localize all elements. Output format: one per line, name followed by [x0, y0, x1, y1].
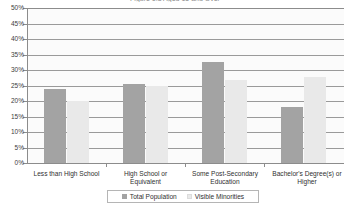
bar-visible-minorities-0	[67, 101, 89, 163]
y-axis-label-5: 5%	[2, 145, 24, 152]
x-axis-label-1: High School or Equivalent	[106, 170, 185, 186]
x-axis-label-0-line1: Less than High School	[27, 170, 106, 178]
legend-item-visible-minorities[interactable]: Visible Minorities	[187, 193, 244, 200]
y-axis-label-30: 30%	[2, 67, 24, 74]
y-axis-label-15: 15%	[2, 114, 24, 121]
y-axis-label-20: 20%	[2, 98, 24, 105]
bar-chart: Figure 1.3 Aged 15 and Over 50% 45% 40% …	[0, 0, 350, 205]
x-axis-label-1-line1: High School or	[106, 170, 185, 178]
bars-layer	[27, 8, 343, 163]
legend-swatch-icon-visible-minorities	[187, 194, 192, 199]
bar-group-some-post-secondary-education	[185, 8, 264, 163]
x-axis-label-2-line2: Education	[183, 178, 267, 186]
bar-total-population-1	[123, 84, 145, 163]
legend-label-visible-minorities: Visible Minorities	[195, 193, 244, 200]
legend-label-total-population: Total Population	[130, 193, 177, 200]
bar-visible-minorities-1	[146, 86, 168, 164]
y-axis-label-0: 0%	[2, 160, 24, 167]
y-axis-label-45: 45%	[2, 21, 24, 28]
legend-item-total-population[interactable]: Total Population	[122, 193, 177, 200]
x-axis-label-2: Some Post-Secondary Education	[183, 170, 267, 186]
x-axis-label-0: Less than High School	[27, 170, 106, 178]
x-axis-label-3-line2: Higher	[264, 178, 350, 186]
y-axis-label-10: 10%	[2, 129, 24, 136]
x-axis-label-3-line1: Bachelor's Degree(s) or	[264, 170, 350, 178]
y-axis-label-35: 35%	[2, 52, 24, 59]
bar-visible-minorities-3	[304, 77, 326, 163]
bar-group-less-than-high-school	[27, 8, 106, 163]
y-axis-label-50: 50%	[2, 5, 24, 12]
y-axis-label-40: 40%	[2, 36, 24, 43]
x-tick-3	[264, 163, 265, 167]
x-tick-2	[185, 163, 186, 167]
bar-total-population-0	[44, 89, 66, 163]
x-axis-label-1-line2: Equivalent	[106, 178, 185, 186]
bar-total-population-3	[281, 107, 303, 163]
y-axis-label-25: 25%	[2, 83, 24, 90]
chart-legend: Total Population Visible Minorities	[107, 190, 259, 203]
x-axis-label-2-line1: Some Post-Secondary	[183, 170, 267, 178]
x-axis-label-3: Bachelor's Degree(s) or Higher	[264, 170, 350, 186]
bar-total-population-2	[202, 62, 224, 163]
chart-title: Figure 1.3 Aged 15 and Over	[0, 0, 350, 2]
bar-group-high-school-or-equivalent	[106, 8, 185, 163]
bar-visible-minorities-2	[225, 80, 247, 163]
bar-group-bachelors-degree-or-higher	[264, 8, 343, 163]
legend-swatch-icon-total-population	[122, 194, 127, 199]
x-tick-1	[106, 163, 107, 167]
